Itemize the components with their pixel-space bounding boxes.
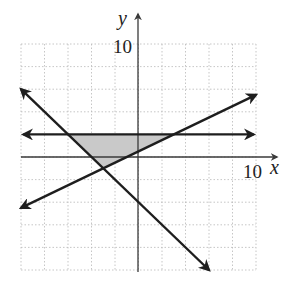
x-axis-label: x [269,156,279,178]
coordinate-plane: y 10 10 x [0,0,293,286]
y-tick-label: 10 [113,36,132,57]
x-tick-label: 10 [243,161,262,182]
shaded-region [68,134,174,168]
y-axis-label: y [116,7,127,30]
